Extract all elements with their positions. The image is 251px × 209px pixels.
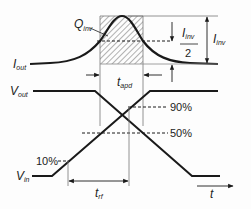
qinv-label: Qinv bbox=[74, 17, 93, 32]
time-axis-label: t bbox=[210, 187, 214, 201]
propagation-delay-diagram: Iout Vout Vin Qinv Iinv 2 Iinv tapd trf … bbox=[0, 0, 251, 209]
level-50-label: 50% bbox=[170, 127, 192, 139]
iinv-half-numerator: Iinv bbox=[182, 26, 195, 40]
vout-label: Vout bbox=[10, 84, 29, 98]
tapd-label: tapd bbox=[117, 75, 133, 90]
qinv-hatched-area bbox=[100, 16, 143, 64]
iout-label: Iout bbox=[13, 57, 27, 71]
level-90-label: 90% bbox=[170, 101, 192, 113]
iinv-label: Iinv bbox=[213, 32, 226, 46]
trf-label: trf bbox=[95, 186, 104, 200]
level-10-label: 10% bbox=[36, 155, 58, 167]
diagram-svg: Iout Vout Vin Qinv Iinv 2 Iinv tapd trf … bbox=[0, 0, 251, 209]
vin-label: Vin bbox=[16, 169, 30, 183]
iinv-half-denominator: 2 bbox=[185, 47, 191, 59]
